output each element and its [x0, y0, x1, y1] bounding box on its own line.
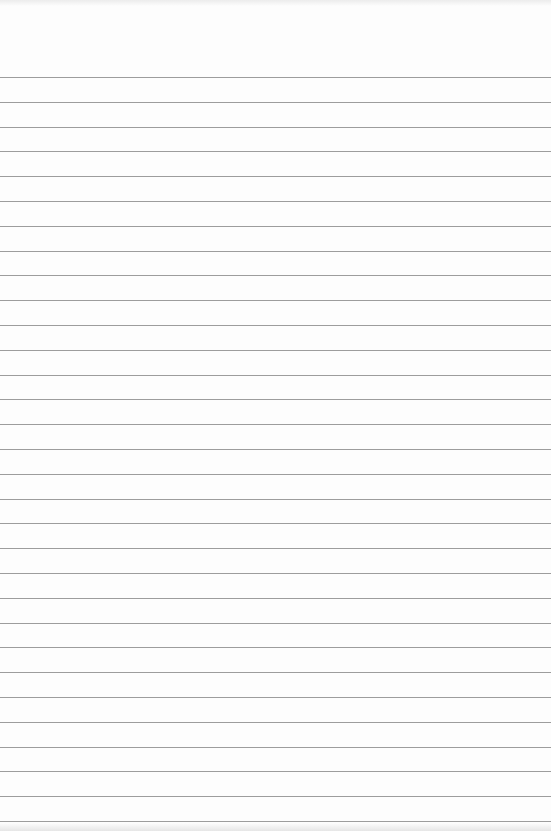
- ruled-line: [0, 548, 551, 549]
- ruled-line: [0, 821, 551, 822]
- ruled-line: [0, 474, 551, 475]
- paper-top-edge: [0, 0, 551, 6]
- ruled-line: [0, 325, 551, 326]
- ruled-line: [0, 722, 551, 723]
- ruled-line: [0, 672, 551, 673]
- ruled-line: [0, 127, 551, 128]
- ruled-line: [0, 573, 551, 574]
- ruled-line: [0, 102, 551, 103]
- ruled-line: [0, 424, 551, 425]
- ruled-line: [0, 226, 551, 227]
- ruled-line: [0, 499, 551, 500]
- ruled-line: [0, 201, 551, 202]
- ruled-line: [0, 796, 551, 797]
- ruled-line: [0, 647, 551, 648]
- ruled-line: [0, 176, 551, 177]
- ruled-line: [0, 399, 551, 400]
- ruled-line: [0, 598, 551, 599]
- ruled-line: [0, 449, 551, 450]
- ruled-line: [0, 151, 551, 152]
- ruled-line: [0, 623, 551, 624]
- ruled-line: [0, 523, 551, 524]
- ruled-line: [0, 251, 551, 252]
- lined-paper-sheet: [0, 0, 551, 831]
- ruled-line: [0, 375, 551, 376]
- ruled-line: [0, 771, 551, 772]
- ruled-line: [0, 275, 551, 276]
- ruled-line: [0, 697, 551, 698]
- paper-bottom-edge: [0, 823, 551, 831]
- ruled-line: [0, 300, 551, 301]
- ruled-line: [0, 350, 551, 351]
- ruled-line: [0, 747, 551, 748]
- ruled-line: [0, 77, 551, 78]
